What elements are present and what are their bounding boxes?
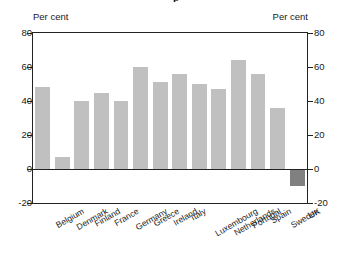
- y-tick-label-right-80: 80: [314, 28, 325, 38]
- y-tick-label-left-40: 40: [21, 96, 32, 106]
- y-tick-mark-right-80: [308, 33, 313, 34]
- y-tick-mark-right--20: [308, 203, 313, 204]
- y-tick-label-right-0: 0: [314, 164, 319, 174]
- y-tick-label-right-40: 40: [314, 96, 325, 106]
- y-tick-mark-right-0: [308, 169, 313, 170]
- bar-spain: [251, 74, 266, 169]
- bar-germany: [114, 101, 129, 169]
- bar-slot: [248, 33, 268, 203]
- bar-italy: [172, 74, 187, 169]
- bar-slot: [53, 33, 73, 203]
- y-tick-label-left-20: 20: [21, 130, 32, 140]
- y-tick-label-left-80: 80: [21, 28, 32, 38]
- bar-slot: [150, 33, 170, 203]
- y-tick-label-right-20: 20: [314, 130, 325, 140]
- y-tick-label-left--20: -20: [18, 198, 32, 208]
- bar-slot: [268, 33, 288, 203]
- bar-uk: [290, 169, 305, 186]
- bar-netherlands: [211, 89, 226, 169]
- left-axis-caption: Per cent: [33, 11, 68, 22]
- y-tick-label-right-60: 60: [314, 62, 325, 72]
- bar-belgium: [35, 87, 50, 169]
- cropped-title-fragment: p: [168, 0, 184, 2]
- bar-finland: [74, 101, 89, 169]
- y-tick-mark-right-40: [308, 101, 313, 102]
- bar-denmark: [55, 157, 70, 169]
- bar-greece: [133, 67, 148, 169]
- bar-chart: p Per cent Per cent -20020406080 -200204…: [0, 0, 344, 268]
- y-tick-label-left-60: 60: [21, 62, 32, 72]
- bar-luxembourg: [192, 84, 207, 169]
- bar-slot: [33, 33, 53, 203]
- y-tick-mark-right-20: [308, 135, 313, 136]
- right-axis-caption: Per cent: [273, 11, 308, 22]
- bar-france: [94, 93, 109, 170]
- bars-container: [33, 33, 307, 203]
- zero-baseline: [33, 169, 307, 170]
- bar-slot: [92, 33, 112, 203]
- y-tick-label-left-0: 0: [27, 164, 32, 174]
- y-tick-mark-right-60: [308, 67, 313, 68]
- bar-slot: [170, 33, 190, 203]
- bar-sweden: [270, 108, 285, 169]
- bar-slot: [209, 33, 229, 203]
- bar-slot: [190, 33, 210, 203]
- bar-slot: [287, 33, 307, 203]
- bar-slot: [111, 33, 131, 203]
- bar-slot: [72, 33, 92, 203]
- x-axis-category-labels: BelgiumDenmarkFinlandFranceGermanyGreece…: [33, 206, 307, 264]
- bar-ireland: [153, 82, 168, 169]
- bar-portugal: [231, 60, 246, 169]
- bar-slot: [131, 33, 151, 203]
- bar-slot: [229, 33, 249, 203]
